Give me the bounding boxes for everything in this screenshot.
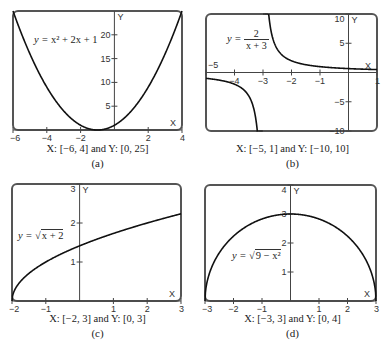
equation-d-lhs: y = √ [232,250,255,261]
y-axis-label-c: Y [83,185,89,195]
curve-b [206,78,258,131]
y-tick-label: 1 [281,267,286,277]
y-tick-label: −10 [329,126,344,136]
x-tick-label: −2 [286,76,296,86]
graph-frame-c [12,184,181,301]
y-tick-label: −5 [334,97,344,107]
equation-a-expr: x² + 2x + 1 [51,34,98,45]
equation-c-lhs: y = √ [18,230,41,241]
x-axis-label-c: X [169,289,175,299]
y-axis-label-a: Y [117,12,123,22]
window-label-b: X: [−5, 1] and Y: [−10, 10] [195,143,390,154]
y-tick-label: 2 [71,218,76,228]
panel-letter-b: (b) [195,157,390,169]
curve-b [268,14,377,70]
equation-d-expr: 9 − x² [255,249,281,261]
y-tick-label: 4 [281,185,286,195]
fraction: 2x + 3 [244,28,269,51]
y-axis-label-b: Y [352,15,358,25]
graph-a: −6−4−2245101520YX−5−4−3−2−11−10−5510YX−2… [0,0,390,343]
window-label-a: X: [−6, 4] and Y: [0, 25] [0,143,195,154]
x-axis-label-d: X [364,289,370,299]
y-tick-label: 5 [339,38,344,48]
y-axis-label-d: Y [294,186,300,196]
window-label-c: X: [−2, 3] and Y: [0, 3] [0,313,195,324]
curve-c [12,214,181,301]
y-tick-label: 3 [71,184,76,194]
equation-c: y = √x + 2 [18,230,63,241]
equation-c-expr: x + 2 [41,229,64,241]
y-tick-label: 1 [71,257,76,267]
y-tick-label: 10 [334,14,344,24]
y-tick-label: 20 [100,30,110,40]
window-label-d: X: [−3, 3] and Y: [0, 4] [195,313,390,324]
equation-a: y = x² + 2x + 1 [34,34,98,45]
x-tick-label: −4 [42,133,52,143]
equation-d: y = √9 − x² [232,250,281,261]
equation-b: y = 2x + 3 [227,28,269,51]
x-tick-label: 4 [180,133,185,143]
x-axis-label-a: X [170,118,176,128]
y-tick-label: 10 [100,77,110,87]
x-tick-label: −6 [10,133,20,143]
x-tick-label: −3 [258,76,268,86]
equation-a-lhs: y = [34,34,51,45]
equation-b-denominator: x + 3 [244,40,269,51]
panel-letter-d: (d) [195,327,390,339]
x-tick-label: −1 [315,76,325,86]
panel-letter-a: (a) [0,157,195,169]
x-tick-label: −5 [208,60,218,70]
equation-b-lhs: y = [227,33,244,44]
y-tick-label: 15 [100,54,110,64]
x-tick-label: 1 [375,76,380,86]
equation-b-numerator: 2 [244,28,269,40]
x-tick-label: −2 [75,133,85,143]
panel-letter-c: (c) [0,327,195,339]
curve-a [13,11,182,130]
y-tick-label: 5 [105,101,110,111]
x-tick-label: 2 [146,133,151,143]
y-tick-label: 2 [281,238,286,248]
